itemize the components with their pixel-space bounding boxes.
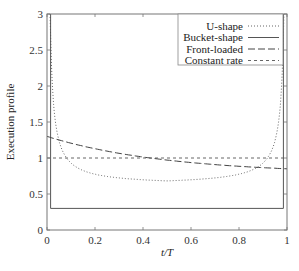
y-tick-label: 0 xyxy=(38,224,44,236)
legend-label: Constant rate xyxy=(185,54,243,66)
legend-label: Front-loaded xyxy=(186,43,243,55)
legend-label: Bucket-shape xyxy=(183,31,243,43)
x-tick-label: 1 xyxy=(284,234,290,246)
chart: 00.20.40.60.8100.511.522.53 t/T Executio… xyxy=(0,0,299,271)
y-tick-label: 1 xyxy=(38,152,44,164)
legend-label: U-shape xyxy=(206,20,243,32)
y-tick-label: 3 xyxy=(38,8,44,20)
y-axis-label: Execution profile xyxy=(4,84,16,161)
x-tick-label: 0.4 xyxy=(136,234,150,246)
legend: U-shapeBucket-shapeFront-loadedConstant … xyxy=(178,14,283,66)
y-tick-label: 1.5 xyxy=(29,116,43,128)
x-axis-label: t/T xyxy=(161,246,174,258)
x-tick-label: 0.2 xyxy=(88,234,102,246)
x-tick-label: 0 xyxy=(44,234,50,246)
y-tick-label: 0.5 xyxy=(29,188,43,200)
y-tick-label: 2 xyxy=(38,80,44,92)
series-line-front-loaded xyxy=(47,136,287,168)
y-tick-label: 2.5 xyxy=(29,44,43,56)
x-tick-label: 0.6 xyxy=(184,234,198,246)
x-tick-label: 0.8 xyxy=(232,234,246,246)
